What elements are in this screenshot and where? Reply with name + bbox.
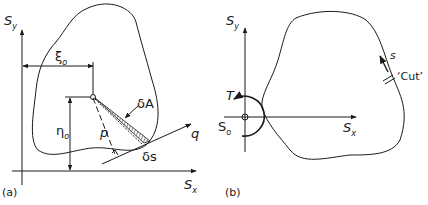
- s0-label: So: [218, 120, 231, 137]
- xi0-label: ξo: [55, 50, 67, 67]
- torque-arc: [234, 96, 264, 136]
- cross-section-outline-b: [262, 11, 404, 159]
- panel-a: [12, 4, 196, 185]
- panel-b: [224, 11, 404, 159]
- dA-label: δA: [137, 97, 154, 110]
- s-label: s: [390, 50, 396, 61]
- cut-label: ‘Cut’: [397, 71, 423, 82]
- cross-section-outline-a: [32, 4, 158, 154]
- torque-label: T: [226, 89, 234, 102]
- caption-a: (a): [2, 187, 17, 198]
- caption-b: (b): [225, 187, 241, 198]
- right-angle-mark: [112, 150, 118, 155]
- p-label: p: [100, 126, 108, 139]
- sy-axis-label-a: Sy: [4, 14, 17, 31]
- diagram-canvas: [0, 0, 428, 205]
- s-direction-arrow: [380, 56, 388, 72]
- sy-axis-label-b: Sy: [226, 14, 239, 31]
- sx-axis-label-b: Sx: [343, 121, 356, 138]
- ds-label: δs: [142, 150, 157, 163]
- sx-axis-label-a: Sx: [184, 178, 197, 195]
- eta0-label: ηo: [56, 124, 69, 141]
- q-label: q: [191, 127, 199, 140]
